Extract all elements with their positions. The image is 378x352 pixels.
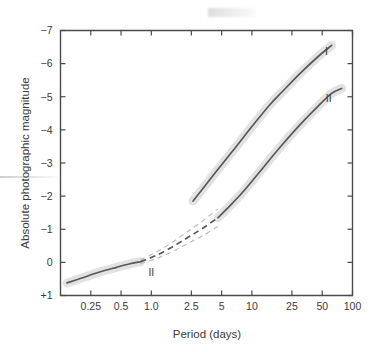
y-tick-label: −6 — [41, 57, 53, 69]
chart-svg: 0.250.51.02.55102550100 −7−6−5−4−3−2−10+… — [0, 0, 378, 352]
x-tick-label: 1.0 — [144, 300, 159, 312]
dashed-envelope-lines — [140, 209, 218, 264]
series-line-dashed — [140, 218, 218, 262]
y-tick-label: −7 — [41, 24, 53, 36]
period-luminosity-chart: 0.250.51.02.55102550100 −7−6−5−4−3−2−10+… — [0, 0, 378, 352]
series-error-bands — [67, 45, 342, 283]
series-label: II — [148, 266, 154, 278]
y-axis-tick-labels: −7−6−5−4−3−2−10+1 — [41, 24, 53, 301]
x-tick-label: 5 — [219, 300, 225, 312]
x-tick-label: 0.25 — [81, 300, 102, 312]
x-axis-tick-labels: 0.250.51.02.55102550100 — [81, 300, 362, 312]
series-band — [193, 45, 332, 201]
y-axis-label: Absolute photographic magnitude — [19, 77, 31, 248]
x-tick-label: 2.5 — [184, 300, 199, 312]
series-lines — [67, 45, 342, 283]
x-tick-label: 100 — [344, 300, 362, 312]
y-tick-label: −1 — [41, 223, 53, 235]
envelope-line — [140, 209, 218, 260]
series-label: II — [326, 92, 332, 104]
y-tick-label: 0 — [47, 256, 53, 268]
series-label: I — [325, 45, 328, 57]
y-tick-label: +1 — [41, 289, 53, 301]
x-tick-label: 10 — [246, 300, 258, 312]
y-tick-label: −5 — [41, 91, 53, 103]
y-tick-label: −2 — [41, 190, 53, 202]
y-tick-label: −4 — [41, 124, 53, 136]
x-tick-label: 0.5 — [114, 300, 129, 312]
x-axis-label: Period (days) — [173, 328, 242, 340]
x-tick-label: 50 — [316, 300, 328, 312]
x-tick-label: 25 — [286, 300, 298, 312]
series-annotations: IIIII — [148, 45, 331, 278]
y-tick-label: −3 — [41, 157, 53, 169]
